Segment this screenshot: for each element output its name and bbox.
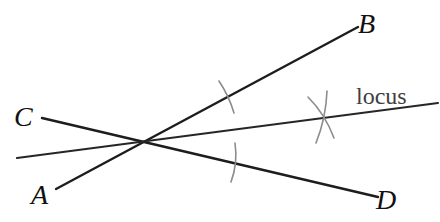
label-point-a: A [31, 181, 48, 209]
label-point-b: B [358, 10, 375, 38]
label-locus-line: locus [356, 84, 407, 108]
label-point-d: D [376, 186, 396, 214]
label-point-c: C [14, 103, 33, 131]
line-cd [42, 118, 378, 197]
line-ab [56, 27, 358, 189]
line-locus [17, 103, 438, 158]
construction-arc-marks [219, 81, 334, 182]
geometry-figure: A B C D locus [0, 0, 440, 222]
diagram-lines [17, 27, 438, 197]
